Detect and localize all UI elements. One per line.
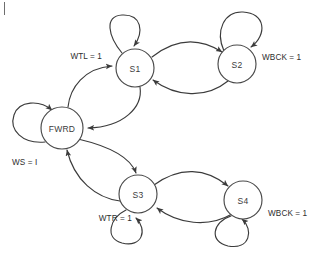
edge-s3-to-fwrd	[67, 150, 120, 201]
edge-fwrd-to-s1	[68, 66, 112, 107]
state-node-s4[interactable]: S4	[224, 181, 262, 219]
state-label-s1: S1	[130, 64, 141, 74]
selfloop-s1	[110, 15, 140, 53]
edge-fwrd-to-s3	[78, 139, 136, 173]
state-machine-diagram: FWRD S1 S2 S3 S4 WTL = 1 WBCK = 1 WS = I…	[0, 0, 328, 256]
state-label-s4: S4	[238, 196, 249, 206]
edge-label-wtr: WTR = 1	[99, 214, 133, 223]
state-label-fwrd: FWRD	[49, 124, 75, 134]
state-label-s2: S2	[232, 60, 243, 70]
edge-s2-to-s1	[153, 80, 228, 94]
edge-s1-to-s2	[152, 42, 222, 57]
state-node-s3[interactable]: S3	[119, 175, 157, 213]
edge-label-ws: WS = I	[12, 158, 37, 167]
selfloop-s4	[215, 216, 248, 247]
state-node-fwrd[interactable]: FWRD	[41, 107, 83, 149]
fsm-canvas: FWRD S1 S2 S3 S4 WTL = 1 WBCK = 1 WS = I…	[0, 0, 328, 256]
edge-label-wbck-s2: WBCK = 1	[262, 53, 302, 62]
edge-s3-to-s4	[154, 172, 228, 186]
state-label-s3: S3	[133, 190, 144, 200]
edge-label-wbck-s4: WBCK = 1	[268, 209, 308, 218]
edge-s1-to-fwrd	[88, 87, 140, 128]
state-node-s1[interactable]: S1	[116, 49, 154, 87]
edge-s4-to-s3	[157, 208, 232, 223]
edge-label-wtl: WTL = 1	[70, 52, 102, 61]
state-node-s2[interactable]: S2	[218, 45, 256, 83]
